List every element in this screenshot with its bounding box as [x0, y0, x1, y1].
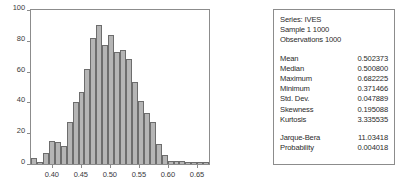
histogram-stats-screenshot: 020406080100 0.400.450.500.550.600.65 Se… — [0, 0, 400, 194]
stat-row: Maximum0.682225 — [280, 74, 388, 84]
stats-rows: Mean0.502373Median0.500800Maximum0.68222… — [280, 54, 388, 125]
stat-row-value: 0.047889 — [358, 94, 388, 104]
stat-row-value: 0.195088 — [358, 105, 388, 115]
stat-row: Std. Dev.0.047889 — [280, 94, 388, 104]
test-stat-row-value: 11.03418 — [358, 133, 388, 143]
statistics-panel: Series: IVES Sample 1 1000 Observations … — [273, 9, 395, 165]
stat-row-value: 0.500800 — [358, 64, 388, 74]
y-axis: 020406080100 — [0, 9, 30, 165]
x-axis-tick-label: 0.50 — [103, 170, 117, 179]
stat-row-value: 0.682225 — [358, 74, 388, 84]
x-axis-tick-mark — [81, 165, 82, 168]
sample-label: Sample 1 1000 — [280, 25, 388, 35]
test-stat-row-key: Jarque-Bera — [280, 133, 320, 143]
test-stat-row: Probability0.004018 — [280, 143, 388, 153]
observations-label: Observations 1000 — [280, 35, 388, 45]
stat-row-key: Median — [280, 64, 304, 74]
y-axis-tick-label: 100 — [13, 4, 25, 12]
stat-row-value: 0.371466 — [358, 84, 388, 94]
x-axis-tick-label: 0.55 — [132, 170, 146, 179]
x-axis-tick-label: 0.45 — [74, 170, 88, 179]
x-axis-tick-label: 0.65 — [190, 170, 204, 179]
stat-row-key: Skewness — [280, 105, 313, 115]
y-axis-tick-label: 20 — [17, 127, 25, 135]
histogram-chart — [30, 9, 210, 165]
stat-row-value: 3.335535 — [358, 115, 388, 125]
x-axis: 0.400.450.500.550.600.65 — [30, 165, 210, 187]
stats-spacer-mid — [280, 125, 388, 133]
stat-row: Minimum0.371466 — [280, 84, 388, 94]
x-axis-tick-label: 0.60 — [161, 170, 175, 179]
y-axis-tick-label: 80 — [17, 35, 25, 43]
stat-row-key: Mean — [280, 54, 298, 64]
stats-test-rows: Jarque-Bera11.03418Probability0.004018 — [280, 133, 388, 153]
stat-row-key: Minimum — [280, 84, 310, 94]
test-stat-row-value: 0.004018 — [358, 143, 388, 153]
stats-spacer-top — [280, 46, 388, 54]
stat-row-key: Std. Dev. — [280, 94, 309, 104]
y-axis-tick-label: 40 — [17, 96, 25, 104]
histogram-bar — [203, 162, 209, 164]
stat-row: Kurtosis3.335535 — [280, 115, 388, 125]
test-stat-row-key: Probability — [280, 143, 314, 153]
test-stat-row: Jarque-Bera11.03418 — [280, 133, 388, 143]
stat-row: Skewness0.195088 — [280, 105, 388, 115]
stat-row-key: Kurtosis — [280, 115, 306, 125]
y-axis-tick-label: 0 — [21, 158, 25, 166]
x-axis-tick-mark — [139, 165, 140, 168]
stat-row: Median0.500800 — [280, 64, 388, 74]
histogram-bars — [31, 10, 209, 164]
series-label: Series: IVES — [280, 15, 388, 25]
x-axis-tick-label: 0.40 — [45, 170, 59, 179]
x-axis-tick-mark — [168, 165, 169, 168]
stat-row-key: Maximum — [280, 74, 312, 84]
y-axis-tick-label: 60 — [17, 66, 25, 74]
x-axis-tick-mark — [110, 165, 111, 168]
x-axis-tick-mark — [197, 165, 198, 168]
stat-row-value: 0.502373 — [358, 54, 388, 64]
stat-row: Mean0.502373 — [280, 54, 388, 64]
x-axis-tick-mark — [52, 165, 53, 168]
